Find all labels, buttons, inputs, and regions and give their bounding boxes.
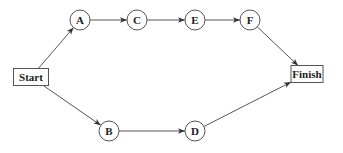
- node-D: D: [185, 121, 205, 141]
- node-finish-label: Finish: [292, 68, 321, 80]
- node-A-label: A: [76, 14, 84, 26]
- node-F: F: [240, 10, 260, 30]
- node-F-label: F: [247, 14, 254, 26]
- node-E: E: [185, 10, 205, 30]
- edge-F-to-finish: [257, 27, 298, 66]
- node-C: C: [127, 10, 147, 30]
- edge-start-to-A: [38, 28, 73, 69]
- network-diagram: StartACEFBDFinish: [0, 0, 343, 153]
- edges: [38, 20, 298, 131]
- node-A: A: [70, 10, 90, 30]
- node-B: B: [99, 121, 119, 141]
- node-D-label: D: [191, 125, 199, 137]
- node-B-label: B: [105, 125, 113, 137]
- node-C-label: C: [133, 14, 141, 26]
- node-E-label: E: [191, 14, 198, 26]
- edge-D-to-finish: [204, 82, 291, 126]
- node-start: Start: [14, 69, 49, 86]
- edge-start-to-B: [43, 86, 101, 126]
- node-finish: Finish: [291, 66, 323, 83]
- nodes: StartACEFBDFinish: [14, 10, 324, 141]
- node-start-label: Start: [19, 71, 43, 83]
